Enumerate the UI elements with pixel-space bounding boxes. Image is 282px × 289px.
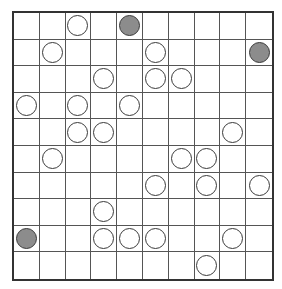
grid-cell[interactable] xyxy=(169,66,195,93)
grid-cell[interactable] xyxy=(143,13,169,40)
grid-cell[interactable] xyxy=(246,40,272,67)
grid-cell[interactable] xyxy=(14,13,40,40)
grid-cell[interactable] xyxy=(66,252,92,279)
grid-cell[interactable] xyxy=(66,173,92,200)
grid-cell[interactable] xyxy=(14,199,40,226)
grid-cell[interactable] xyxy=(143,199,169,226)
grid-cell[interactable] xyxy=(40,119,66,146)
grid-cell[interactable] xyxy=(143,226,169,253)
grid-cell[interactable] xyxy=(169,119,195,146)
grid-cell[interactable] xyxy=(91,93,117,120)
grid-cell[interactable] xyxy=(220,93,246,120)
grid-cell[interactable] xyxy=(91,173,117,200)
grid-cell[interactable] xyxy=(40,40,66,67)
grid-cell[interactable] xyxy=(143,173,169,200)
grid-cell[interactable] xyxy=(169,146,195,173)
grid-cell[interactable] xyxy=(220,146,246,173)
grid-cell[interactable] xyxy=(169,13,195,40)
grid-cell[interactable] xyxy=(66,93,92,120)
grid-cell[interactable] xyxy=(117,66,143,93)
grid-cell[interactable] xyxy=(246,119,272,146)
grid-cell[interactable] xyxy=(195,13,221,40)
grid-cell[interactable] xyxy=(14,93,40,120)
grid-cell[interactable] xyxy=(246,93,272,120)
grid-cell[interactable] xyxy=(143,252,169,279)
grid-cell[interactable] xyxy=(66,66,92,93)
grid-cell[interactable] xyxy=(117,119,143,146)
grid-cell[interactable] xyxy=(246,13,272,40)
grid-cell[interactable] xyxy=(246,66,272,93)
grid-cell[interactable] xyxy=(40,173,66,200)
grid-cell[interactable] xyxy=(143,146,169,173)
grid-cell[interactable] xyxy=(169,199,195,226)
grid-cell[interactable] xyxy=(66,146,92,173)
grid-cell[interactable] xyxy=(66,226,92,253)
grid-cell[interactable] xyxy=(40,252,66,279)
grid-cell[interactable] xyxy=(40,146,66,173)
grid-cell[interactable] xyxy=(220,226,246,253)
grid-cell[interactable] xyxy=(143,119,169,146)
grid-cell[interactable] xyxy=(143,40,169,67)
grid-cell[interactable] xyxy=(195,173,221,200)
grid-cell[interactable] xyxy=(14,66,40,93)
grid-cell[interactable] xyxy=(91,40,117,67)
grid-cell[interactable] xyxy=(220,40,246,67)
grid-cell[interactable] xyxy=(91,199,117,226)
grid-cell[interactable] xyxy=(169,226,195,253)
grid-cell[interactable] xyxy=(66,13,92,40)
grid-cell[interactable] xyxy=(195,119,221,146)
grid-cell[interactable] xyxy=(220,252,246,279)
grid-cell[interactable] xyxy=(14,226,40,253)
grid-cell[interactable] xyxy=(169,252,195,279)
grid-cell[interactable] xyxy=(117,173,143,200)
grid-cell[interactable] xyxy=(220,66,246,93)
grid-cell[interactable] xyxy=(91,119,117,146)
grid-cell[interactable] xyxy=(220,13,246,40)
grid-cell[interactable] xyxy=(91,252,117,279)
grid-cell[interactable] xyxy=(40,66,66,93)
grid-cell[interactable] xyxy=(91,66,117,93)
grid-cell[interactable] xyxy=(143,93,169,120)
grid-cell[interactable] xyxy=(14,173,40,200)
grid-cell[interactable] xyxy=(66,40,92,67)
grid-cell[interactable] xyxy=(169,93,195,120)
grid-cell[interactable] xyxy=(246,252,272,279)
grid-cell[interactable] xyxy=(195,226,221,253)
grid-cell[interactable] xyxy=(66,199,92,226)
grid-cell[interactable] xyxy=(195,66,221,93)
grid-cell[interactable] xyxy=(195,93,221,120)
grid-cell[interactable] xyxy=(14,40,40,67)
grid-cell[interactable] xyxy=(117,13,143,40)
grid-cell[interactable] xyxy=(246,199,272,226)
grid-cell[interactable] xyxy=(169,173,195,200)
grid-cell[interactable] xyxy=(117,93,143,120)
grid-cell[interactable] xyxy=(246,146,272,173)
grid-cell[interactable] xyxy=(91,226,117,253)
grid-cell[interactable] xyxy=(220,173,246,200)
grid-cell[interactable] xyxy=(91,146,117,173)
grid-cell[interactable] xyxy=(117,199,143,226)
grid-cell[interactable] xyxy=(195,199,221,226)
grid-cell[interactable] xyxy=(14,119,40,146)
grid-cell[interactable] xyxy=(40,226,66,253)
grid-cell[interactable] xyxy=(40,199,66,226)
grid-cell[interactable] xyxy=(117,252,143,279)
grid-cell[interactable] xyxy=(117,40,143,67)
grid-cell[interactable] xyxy=(220,199,246,226)
grid-cell[interactable] xyxy=(246,173,272,200)
grid-cell[interactable] xyxy=(195,252,221,279)
grid-cell[interactable] xyxy=(143,66,169,93)
grid-cell[interactable] xyxy=(195,146,221,173)
grid-cell[interactable] xyxy=(14,146,40,173)
grid-cell[interactable] xyxy=(40,93,66,120)
grid-cell[interactable] xyxy=(246,226,272,253)
grid-cell[interactable] xyxy=(195,40,221,67)
grid-cell[interactable] xyxy=(91,13,117,40)
grid-cell[interactable] xyxy=(40,13,66,40)
grid-cell[interactable] xyxy=(66,119,92,146)
grid-cell[interactable] xyxy=(169,40,195,67)
grid-cell[interactable] xyxy=(117,146,143,173)
grid-cell[interactable] xyxy=(220,119,246,146)
grid-cell[interactable] xyxy=(14,252,40,279)
grid-cell[interactable] xyxy=(117,226,143,253)
